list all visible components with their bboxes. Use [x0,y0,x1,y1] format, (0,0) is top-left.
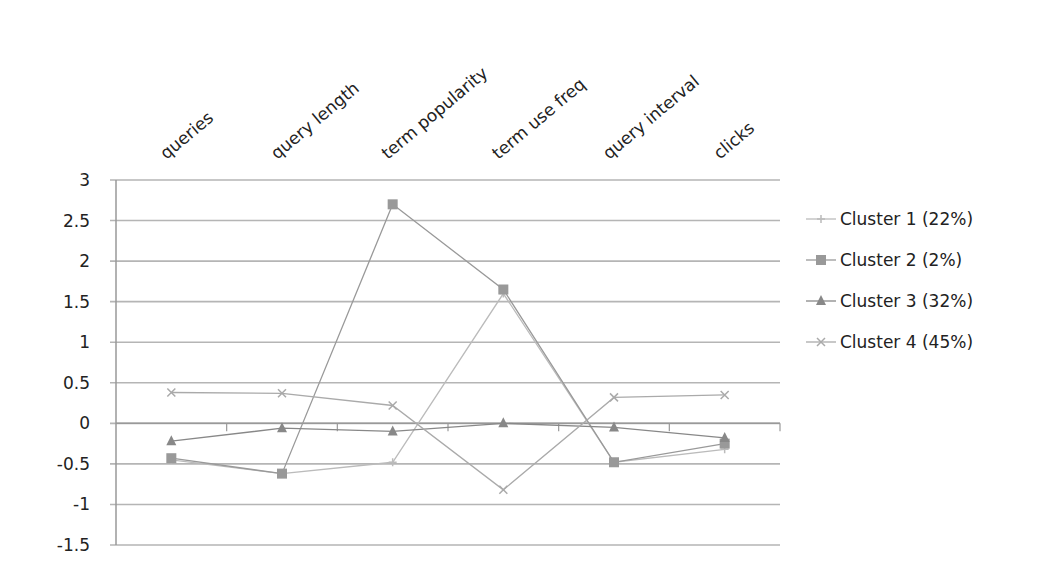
series-cluster-4 [167,389,728,494]
series-line [171,294,724,474]
category-label: query length [267,78,363,163]
legend-item: Cluster 1 (22%) [806,209,973,229]
triangle-marker-icon [498,417,508,427]
y-tick-label: 1.5 [63,292,90,312]
category-label: term popularity [377,63,491,163]
legend: Cluster 1 (22%)Cluster 2 (2%)Cluster 3 (… [806,209,973,352]
y-axis: 32.521.510.50-0.5-1-1.5 [57,170,116,555]
x-marker-icon [499,486,507,494]
series-line [171,393,724,490]
y-tick-label: -1.5 [57,535,90,555]
y-tick-label: 2.5 [63,211,90,231]
legend-item: Cluster 4 (45%) [806,332,973,352]
square-marker-icon [498,285,508,295]
square-marker-icon [166,453,176,463]
series-line [171,204,724,473]
square-marker-icon [816,255,826,265]
square-marker-icon [609,457,619,467]
series-lines [166,199,729,494]
y-tick-label: 1 [79,332,90,352]
category-label: term use freq [488,74,589,163]
category-label: query interval [599,71,703,163]
y-tick-label: 3 [79,170,90,190]
square-marker-icon [277,469,287,479]
legend-label: Cluster 2 (2%) [840,250,962,270]
legend-item: Cluster 3 (32%) [806,291,973,311]
gridlines [110,180,780,545]
plus-marker-icon [817,215,825,223]
triangle-marker-icon [720,432,730,442]
square-marker-icon [388,199,398,209]
series-cluster-1 [167,290,728,478]
series-cluster-2 [166,199,729,478]
y-tick-label: -1 [73,494,90,514]
y-tick-label: -0.5 [57,454,90,474]
category-label: queries [156,107,217,163]
legend-label: Cluster 1 (22%) [840,209,973,229]
legend-item: Cluster 2 (2%) [806,250,962,270]
legend-label: Cluster 4 (45%) [840,332,973,352]
triangle-marker-icon [816,295,826,305]
y-tick-label: 0.5 [63,373,90,393]
line-chart: 32.521.510.50-0.5-1-1.5 queriesquery len… [0,0,1057,585]
y-tick-label: 0 [79,413,90,433]
plus-marker-icon [389,458,397,466]
triangle-marker-icon [388,425,398,435]
legend-label: Cluster 3 (32%) [840,291,973,311]
y-tick-label: 2 [79,251,90,271]
category-label: clicks [709,118,758,164]
